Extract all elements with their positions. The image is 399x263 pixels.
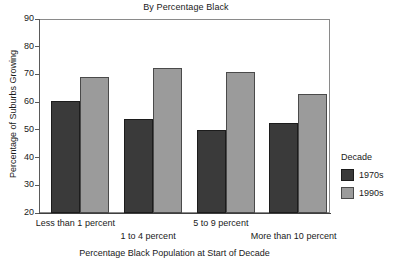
chart-title: By Percentage Black: [136, 2, 236, 12]
legend-swatch: [341, 169, 354, 181]
x-tick-label: 1 to 4 percent: [88, 231, 208, 241]
bar: [298, 94, 327, 213]
legend-item[interactable]: 1970s: [341, 168, 399, 181]
legend-label: 1990s: [359, 188, 384, 198]
bar-group: [39, 19, 330, 213]
legend-label: 1970s: [359, 170, 384, 180]
legend-swatch: [341, 187, 354, 199]
bar: [153, 68, 182, 214]
y-axis-title: Percentage of Suburbs Growing: [8, 29, 18, 199]
x-axis-title: Percentage Black Population at Start of …: [0, 248, 349, 258]
bar: [197, 130, 226, 213]
y-tick-label: 20: [0, 208, 34, 217]
x-tick-label: 5 to 9 percent: [161, 218, 281, 228]
legend-title: Decade: [341, 152, 399, 162]
x-tick-label: Less than 1 percent: [15, 218, 135, 228]
legend: Decade 1970s1990s: [341, 152, 399, 204]
bar: [226, 72, 255, 213]
bar: [51, 101, 80, 213]
x-axis-line: [39, 213, 331, 214]
legend-entries: 1970s1990s: [341, 168, 399, 199]
legend-item[interactable]: 1990s: [341, 186, 399, 199]
bar: [269, 123, 298, 213]
bar: [80, 77, 109, 213]
bar: [124, 119, 153, 213]
chart-root: By Percentage Black 2030405060708090 Per…: [0, 0, 399, 263]
y-tick-label: 90: [0, 14, 34, 23]
x-tick-label: More than 10 percent: [234, 231, 354, 241]
